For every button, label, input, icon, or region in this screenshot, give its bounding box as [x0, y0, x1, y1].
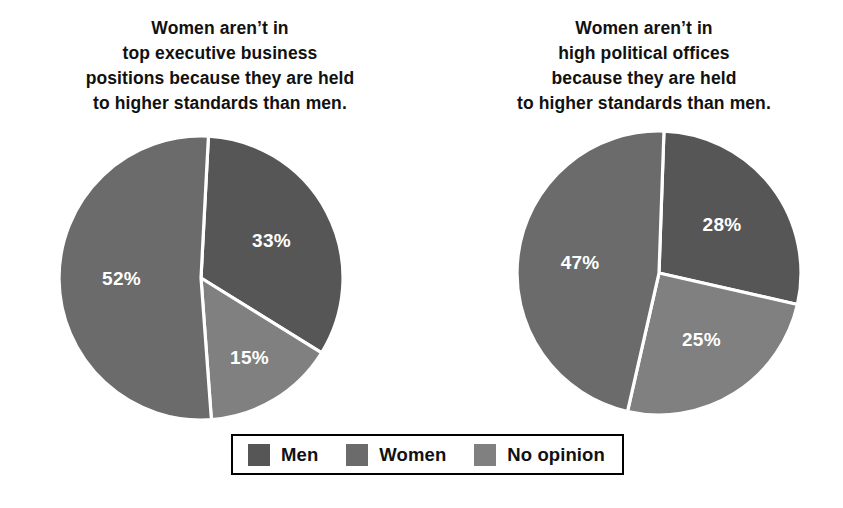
pie-slice-label: 28% [703, 214, 742, 235]
legend-item-no-opinion: No opinion [474, 444, 605, 466]
chart-title-business: Women aren’t in top executive business p… [16, 16, 424, 116]
pie-slice-label: 25% [682, 329, 721, 350]
legend-item-women: Women [346, 444, 446, 466]
pie-slice-label: 47% [561, 252, 600, 273]
pie-slice-label: 33% [252, 230, 291, 251]
legend-label-no-opinion: No opinion [507, 444, 605, 466]
pie-chart-business: 33%15%52% [58, 130, 346, 422]
legend-swatch-women [346, 444, 368, 466]
chart-title-political: Women aren’t in high political offices b… [452, 16, 836, 116]
chart-legend: Men Women No opinion [231, 434, 624, 475]
pie-svg-political: 28%25%47% [516, 128, 804, 420]
pie-slice-label: 52% [102, 268, 141, 289]
pie-slice-label: 15% [230, 347, 269, 368]
legend-label-men: Men [281, 444, 318, 466]
pie-chart-political: 28%25%47% [516, 128, 804, 420]
pie-svg-business: 33%15%52% [58, 130, 346, 422]
legend-swatch-no-opinion [474, 444, 496, 466]
legend-label-women: Women [379, 444, 446, 466]
legend-swatch-men [248, 444, 270, 466]
legend-item-men: Men [248, 444, 318, 466]
pie-slices-political [517, 131, 801, 415]
